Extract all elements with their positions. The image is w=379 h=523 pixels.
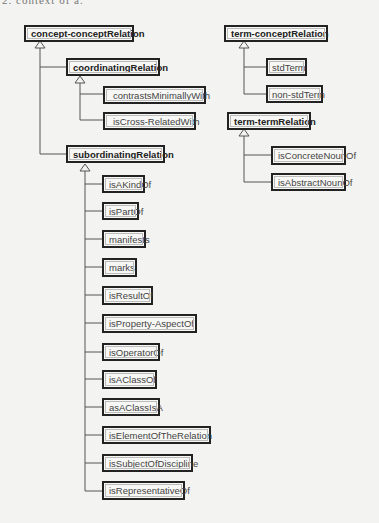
node-is-a-kind-of: isAKindOf <box>102 175 145 193</box>
node-subordinating-relation: subordinatingRelation <box>66 145 165 163</box>
node-is-element-of-the-relation: isElementOfTheRelation <box>102 426 211 444</box>
node-std-term: stdTerm <box>266 58 307 76</box>
node-is-result-of: isResultOf <box>102 286 153 305</box>
node-as-a-class-is-a: asAClassIsA <box>102 398 160 416</box>
node-non-std-term: non-stdTerm <box>266 85 323 103</box>
node-coordinating-relation: coordinatingRelation <box>66 58 160 76</box>
node-marks: marks <box>102 258 137 277</box>
node-is-representative-of: isRepresentativeOf <box>102 481 185 500</box>
node-is-subject-of-discipline: isSubjectOfDiscipline <box>102 454 193 472</box>
node-is-abstract-noun-of: isAbstractNounOf <box>271 173 346 191</box>
node-manifests: manifests <box>102 230 146 248</box>
node-is-concrete-noun-of: isConcreteNounOf <box>271 146 346 165</box>
node-is-a-class-of: isAClassOf <box>102 370 157 389</box>
node-contrasts-minimally-with: contrastsMinimallyWith <box>103 86 206 104</box>
node-is-cross-related-with: isCross-RelatedWith <box>103 112 196 130</box>
connector-lines <box>0 0 379 523</box>
node-is-part-of: isPartOf <box>102 202 139 220</box>
node-is-property-aspect-of: isProperty-AspectOf <box>102 314 197 333</box>
node-term-term-relation: term-termRelation <box>227 112 311 130</box>
node-term-concept-relation: term-conceptRelation <box>224 25 328 42</box>
node-concept-concept-relation: concept-conceptRelation <box>24 25 134 42</box>
node-is-operator-of: isOperatorOf <box>102 343 160 361</box>
